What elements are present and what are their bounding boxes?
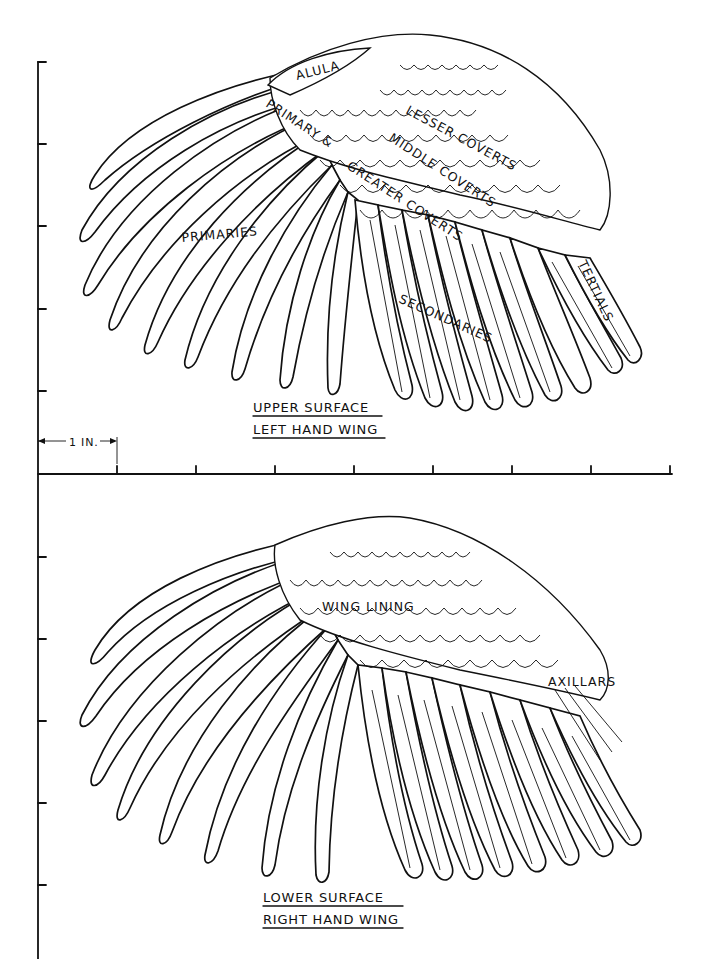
upper-wing: ALULA PRIMARY & GREATER COVERTS LESSER C… <box>80 34 641 438</box>
caption-upper-line1: UPPER SURFACE <box>253 400 369 415</box>
caption-upper-line2: LEFT HAND WING <box>253 422 378 437</box>
caption-lower-line1: LOWER SURFACE <box>263 890 384 905</box>
caption-lower-line2: RIGHT HAND WING <box>263 912 399 927</box>
secondaries <box>355 200 591 411</box>
lower-wing: WING LINING AXILLARS LOWER SURFACE RIGHT… <box>80 517 641 928</box>
label-axillars: AXILLARS <box>548 674 616 689</box>
inch-scale-bar: 1 IN. <box>38 436 117 464</box>
wing-diagram: 1 IN. <box>0 0 712 959</box>
scale-label: 1 IN. <box>69 436 98 449</box>
label-wing-lining: WING LINING <box>322 599 415 614</box>
